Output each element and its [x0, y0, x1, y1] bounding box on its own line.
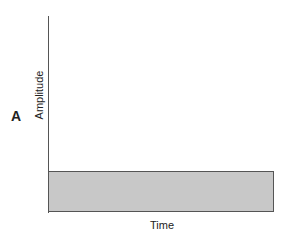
- amplitude-area: [48, 171, 274, 212]
- panel-label: A: [11, 108, 21, 124]
- y-axis-label: Amplitude: [33, 71, 45, 120]
- x-axis-label: Time: [150, 219, 174, 231]
